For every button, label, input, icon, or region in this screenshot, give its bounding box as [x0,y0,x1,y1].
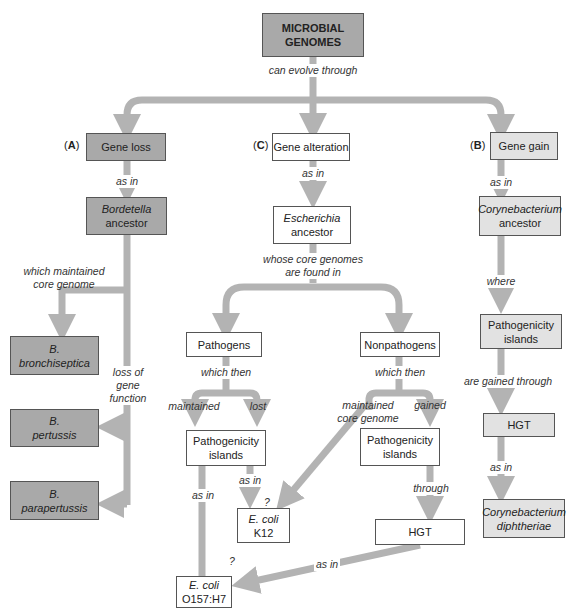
branch-b-link4: as in [485,461,517,474]
o157-line2: O157:H7 [182,592,226,606]
coryne-ancestor-line2: ancestor [499,216,541,230]
pathogens-islands-box: Pathogenicity islands [186,430,266,466]
root-link-label: can evolve through [262,64,364,77]
nonpathogens-maintained: maintained core genome [336,399,400,425]
escherichia-ancestor-box: Escherichia ancestor [273,206,351,244]
k12-line1: E. coli [249,512,279,526]
branch-c-link1: as in [293,167,333,180]
o157-line1: E. coli [189,578,219,592]
maintained-line1: which maintained [14,265,114,278]
loss-line1: loss of [108,366,148,379]
gene-loss-label: Gene loss [101,140,151,154]
diphtheriae-line1: Corynebacterium [482,505,566,519]
escherichia-line2: ancestor [291,225,333,239]
b-islands-line1: Pathogenicity [488,318,554,332]
b-parapertussis-box: B. parapertussis [10,481,99,520]
branch-c-tag: (C) [253,139,268,151]
bronchiseptica-line2: bronchiseptica [19,356,90,370]
escherichia-line1: Escherichia [284,211,341,225]
nonpathogens-gained: gained [412,399,448,412]
pathogens-box: Pathogens [186,332,262,357]
branch-c-link2: whose core genomes are found in [258,253,368,279]
b-hgt-label: HGT [507,418,530,432]
branch-b-letter: B [474,139,482,151]
bordetella-ancestor-line1: Bordetella [102,202,152,216]
branch-b-link3: are gained through [460,375,556,388]
nonpathogens-through: through [413,482,449,495]
ecoli-o157-box: E. coli O157:H7 [176,576,232,608]
k12-line2: K12 [254,526,274,540]
maintained-line2: core genome [14,278,114,291]
branch-a-letter: A [68,139,76,151]
nonpathogens-link: which then [370,366,430,379]
pertussis-line1: B. [49,414,59,428]
root-line1: MICROBIAL [282,21,344,35]
b-islands-line2: islands [504,332,538,346]
nonpathogens-islands-box: Pathogenicity islands [360,428,440,466]
loss-line2: gene [108,379,148,392]
b-pertussis-box: B. pertussis [10,409,99,447]
np-hgt-label: HGT [408,525,431,539]
np-maintained-line1: maintained [336,399,400,412]
p-islands-line2: islands [209,448,243,462]
k12-question: ? [262,496,272,509]
coryne-ancestor-line1: Corynebacterium [478,202,562,216]
loss-line3: function [108,392,148,405]
gene-alteration-box: Gene alteration [272,133,350,161]
np-islands-line2: islands [383,447,417,461]
o157-question: ? [227,555,237,568]
bordetella-ancestor-box: Bordetella ancestor [86,197,167,235]
bordetella-ancestor-line2: ancestor [105,216,147,230]
pathogens-link: which then [196,366,256,379]
b-hgt-box: HGT [483,413,555,437]
pathogens-label: Pathogens [198,338,251,352]
np-maintained-line2: core genome [336,412,400,425]
corynebacterium-ancestor-box: Corynebacterium ancestor [479,196,561,236]
nonpathogens-label: Nonpathogens [364,338,436,352]
corynebacterium-diphtheriae-box: Corynebacterium diphtheriae [483,499,565,538]
parapertussis-line2: parapertussis [21,501,87,515]
branch-c-letter: C [257,139,265,151]
nonpathogens-box: Nonpathogens [360,332,440,357]
pathogens-maintained: maintained [166,400,222,413]
pathogens-as-in-left: as in [187,489,219,502]
branch-a-loss-label: loss of gene function [108,366,148,405]
bronchiseptica-line1: B. [49,342,59,356]
p-islands-line1: Pathogenicity [193,434,259,448]
nonpathogens-hgt-box: HGT [375,519,465,545]
branch-a-tag: (A) [64,139,79,151]
branch-a-link1: as in [107,175,147,188]
core-genomes-line1: whose core genomes [258,253,368,266]
branch-b-link1: as in [485,176,517,189]
microbial-genomes-box: MICROBIAL GENOMES [262,13,364,57]
diphtheriae-line2: diphtheriae [497,519,551,533]
pertussis-line2: pertussis [32,428,76,442]
np-islands-line1: Pathogenicity [367,433,433,447]
b-islands-box: Pathogenicity islands [480,314,562,349]
branch-a-maintained-label: which maintained core genome [14,265,114,291]
ecoli-k12-box: E. coli K12 [237,508,290,543]
root-line2: GENOMES [285,35,341,49]
gene-alteration-label: Gene alteration [273,140,348,154]
branch-b-link2: where [484,275,518,288]
gene-loss-box: Gene loss [86,133,166,161]
gene-gain-box: Gene gain [490,132,558,160]
pathogens-lost: lost [245,400,271,413]
parapertussis-line1: B. [49,487,59,501]
gene-gain-label: Gene gain [499,139,550,153]
nonpathogens-as-in: as in [314,558,340,571]
pathogens-as-in-right: as in [234,474,266,487]
core-genomes-line2: are found in [258,266,368,279]
b-bronchiseptica-box: B. bronchiseptica [10,336,99,375]
branch-b-tag: (B) [470,139,485,151]
